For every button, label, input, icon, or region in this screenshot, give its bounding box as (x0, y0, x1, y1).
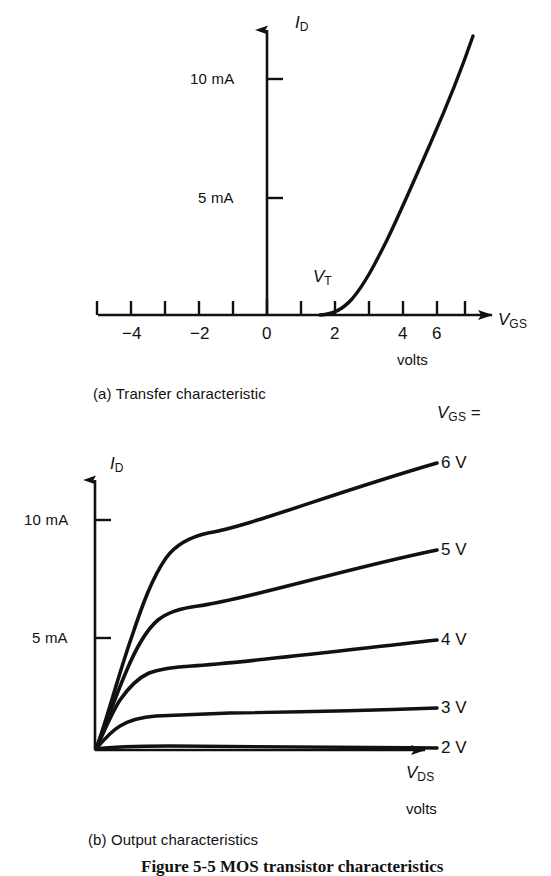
panel-b-axes (95, 463, 437, 750)
panel-a-y-axis-label: ID (295, 14, 309, 33)
panel-b-curve-5v (96, 550, 437, 749)
panel-a-xtick-label-6: 6 (432, 325, 441, 342)
panel-b-curve-6v (96, 463, 437, 749)
panel-b-legend-title: VGS = (437, 404, 481, 423)
panel-b-curve-3v (96, 708, 437, 749)
figure-caption: Figure 5-5 MOS transistor characteristic… (141, 858, 443, 875)
panel-b-ytick-label-10ma: 10 mA (24, 512, 68, 527)
panel-a-transfer-curve (320, 36, 473, 315)
panel-b-curve-2v (96, 746, 437, 749)
panel-b-curve-label-5v: 5 V (441, 541, 467, 558)
panel-a-caption: (a) Transfer characteristic (93, 386, 266, 401)
panel-a-xtick-label-2: 2 (330, 325, 339, 342)
panel-a-xtick-label--2: −2 (190, 325, 209, 342)
panel-b-curve-label-2v: 2 V (441, 739, 467, 756)
panel-a-ytick-label-10ma: 10 mA (190, 71, 234, 86)
panel-b-y-axis-label: ID (110, 455, 124, 474)
panel-a-xtick-label--4: −4 (122, 325, 141, 342)
panel-b-curve-label-3v: 3 V (441, 699, 467, 716)
panel-b-curve-label-6v: 6 V (441, 454, 467, 471)
panel-a-xtick-label-0: 0 (262, 325, 271, 342)
panel-a-x-axis-label: VGS (498, 311, 527, 330)
panel-a-x-axis-units: volts (397, 352, 428, 367)
panel-b-x-axis-label: VDS (406, 764, 434, 783)
panel-a-axes (97, 30, 492, 315)
panel-b-curve-4v (96, 640, 437, 749)
panel-b-caption: (b) Output characteristics (88, 832, 258, 847)
panel-b-curve-label-4v: 4 V (441, 631, 467, 648)
panel-a-threshold-voltage-label: VT (313, 268, 332, 287)
panel-b-x-axis-units: volts (406, 801, 437, 816)
panel-a-x-ticks (97, 299, 465, 315)
panel-a-xtick-label-4: 4 (398, 325, 407, 342)
panel-b-ytick-label-5ma: 5 mA (32, 630, 68, 645)
panel-a-ytick-label-5ma: 5 mA (198, 190, 234, 205)
